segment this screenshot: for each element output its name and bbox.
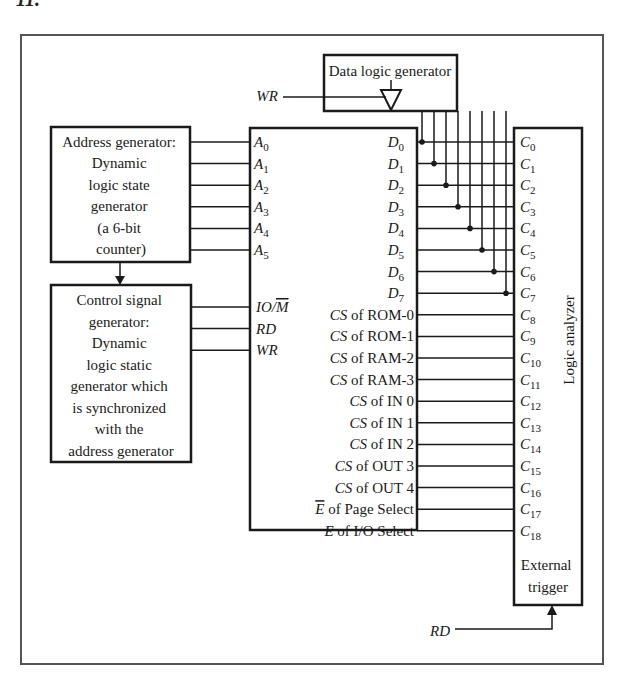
control-pin-label: IO/M xyxy=(255,299,290,315)
select-signal-label: E of I/O Select xyxy=(323,523,414,539)
junction-dot-icon xyxy=(419,139,425,145)
address-generator: Address generator: Dynamic logic state g… xyxy=(51,127,190,262)
wr-enable-label: WR xyxy=(256,88,278,104)
junction-dot-icon xyxy=(467,226,473,232)
control-inputs: IO/MRDWR xyxy=(191,299,290,358)
junction-dot-icon xyxy=(503,290,509,296)
logic-analyzer-title: Logic analyzer xyxy=(561,295,577,385)
logic-analyzer-test-setup-diagram: 11. Data logic generator WR Address gene… xyxy=(0,0,628,681)
select-signal-label: CS of IN 2 xyxy=(349,436,414,452)
control-pin-label: RD xyxy=(255,321,276,337)
select-signal-label: CS of ROM-1 xyxy=(330,328,414,344)
select-signal-label: E of Page Select xyxy=(314,501,415,517)
control-pin-label: WR xyxy=(256,342,278,358)
data-logic-generator: Data logic generator xyxy=(324,55,457,111)
select-signal-label: CS of IN 1 xyxy=(349,415,414,431)
rd-trigger-label: RD xyxy=(429,623,450,639)
select-signal-label: CS of OUT 3 xyxy=(335,458,414,474)
arrow-down-icon xyxy=(115,276,125,285)
junction-dot-icon xyxy=(431,161,437,167)
select-signal-label: CS of ROM-0 xyxy=(330,307,414,323)
rd-trigger-wire xyxy=(455,614,552,629)
junction-dot-icon xyxy=(491,269,497,275)
data-logic-generator-label: Data logic generator xyxy=(329,63,451,79)
figure-label: 11. xyxy=(16,0,40,10)
select-signal-label: CS of IN 0 xyxy=(349,393,414,409)
junction-dot-icon xyxy=(479,247,485,253)
select-signal-label: CS of RAM-2 xyxy=(330,350,414,366)
junction-dot-icon xyxy=(455,204,461,210)
control-signal-generator: Control signal generator: Dynamic logic … xyxy=(51,285,191,462)
select-signal-label: CS of OUT 4 xyxy=(335,480,415,496)
junction-dot-icon xyxy=(443,182,449,188)
select-signal-label: CS of RAM-3 xyxy=(330,372,414,388)
arrow-up-icon xyxy=(547,605,557,615)
